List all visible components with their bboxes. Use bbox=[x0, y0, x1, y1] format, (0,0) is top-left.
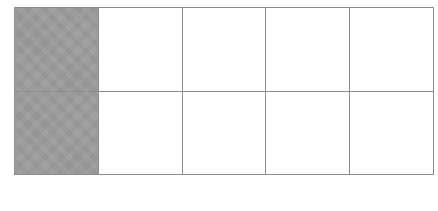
grid-row bbox=[15, 8, 434, 92]
grid-cell-r2c1[interactable] bbox=[15, 91, 99, 175]
grid-cell-label bbox=[99, 92, 182, 175]
grid-cell-label bbox=[183, 8, 266, 91]
grid-cell-label bbox=[15, 92, 98, 175]
grid-cell-r2c3[interactable] bbox=[182, 91, 266, 175]
grid-cell-r1c1[interactable] bbox=[15, 8, 99, 92]
grid-cell-label bbox=[266, 8, 349, 91]
grid-cell-r1c4[interactable] bbox=[266, 8, 350, 92]
grid-cell-r2c4[interactable] bbox=[266, 91, 350, 175]
grid-cell-label bbox=[99, 8, 182, 91]
grid-cell-r1c3[interactable] bbox=[182, 8, 266, 92]
grid-cell-r1c2[interactable] bbox=[98, 8, 182, 92]
grid-row bbox=[15, 91, 434, 175]
grid-cell-label bbox=[350, 8, 433, 91]
area-model-grid bbox=[14, 7, 434, 175]
grid-cell-label bbox=[15, 8, 98, 91]
grid-cell-label bbox=[266, 92, 349, 175]
grid-cell-label bbox=[183, 92, 266, 175]
figure-canvas bbox=[0, 0, 438, 211]
grid-cell-label bbox=[350, 92, 433, 175]
grid-cell-r2c2[interactable] bbox=[98, 91, 182, 175]
grid-body bbox=[15, 8, 434, 175]
grid-cell-r1c5[interactable] bbox=[350, 8, 434, 92]
grid-cell-r2c5[interactable] bbox=[350, 91, 434, 175]
